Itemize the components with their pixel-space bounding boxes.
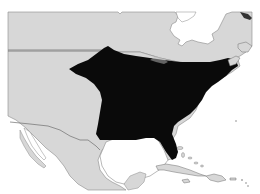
range-map: [0, 0, 260, 194]
puerto-rico: [230, 178, 236, 180]
